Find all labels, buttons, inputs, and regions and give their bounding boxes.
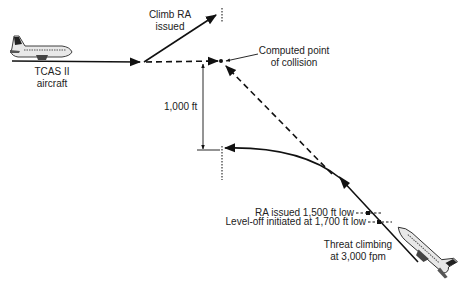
climb-ra-label-line1: Climb RA	[140, 9, 200, 21]
collision-point-label-line1: Computed point	[254, 45, 334, 57]
collision-point-dot	[219, 59, 223, 63]
climb-ra-label-line2: issued	[140, 21, 200, 33]
tcas-aircraft-icon	[10, 36, 72, 60]
projected-own-path	[146, 61, 218, 62]
level-off-label: Level-off initiated at 1,700 ft low	[226, 216, 366, 228]
collision-point-label: Computed point of collision	[254, 45, 334, 69]
threat-aircraft-icon	[392, 217, 459, 281]
threat-label-line2: at 3,000 fpm	[318, 251, 398, 263]
own-flight-path	[12, 61, 140, 62]
threat-label-line1: Threat climbing	[318, 239, 398, 251]
ra-issued-dot	[366, 211, 370, 215]
threat-label: Threat climbing at 3,000 fpm	[318, 239, 398, 263]
climb-ra-label: Climb RA issued	[140, 9, 200, 33]
separation-label: 1,000 ft	[164, 101, 197, 113]
own-aircraft-label: TCAS II aircraft	[22, 66, 82, 90]
threat-projected-path	[226, 66, 332, 174]
own-aircraft-label-line1: TCAS II	[22, 66, 82, 78]
own-aircraft-label-line2: aircraft	[22, 78, 82, 90]
collision-point-label-line2: of collision	[254, 57, 334, 69]
level-off-dot	[377, 220, 381, 224]
